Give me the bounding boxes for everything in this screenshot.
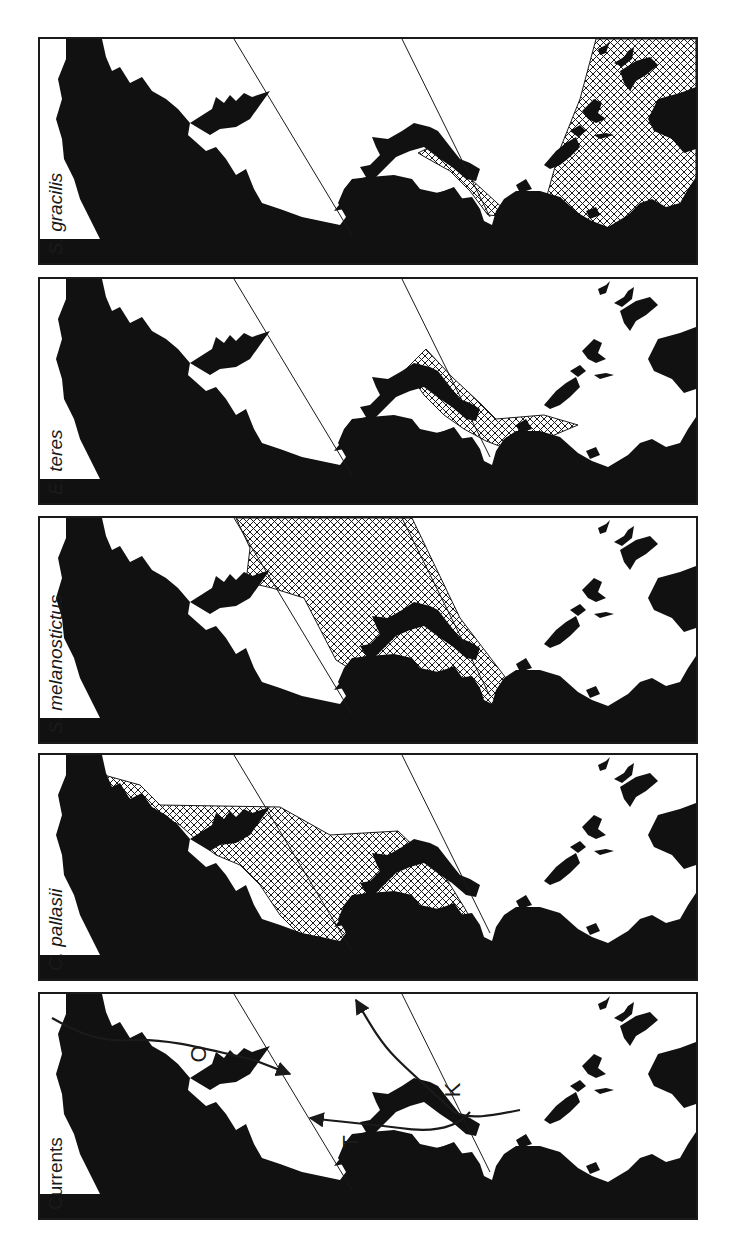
panel-e-teres: E. teres bbox=[38, 277, 698, 505]
current-label-k: K bbox=[440, 1082, 465, 1097]
panel-label: S. melanostictus bbox=[44, 595, 68, 734]
map-e-teres bbox=[40, 279, 696, 503]
panel-currents: O K T Currents bbox=[38, 992, 698, 1220]
map-s-gracilis bbox=[40, 39, 696, 263]
panel-s-melanostictus: S. melanostictus bbox=[38, 516, 698, 744]
panel-label: Currents bbox=[44, 1137, 68, 1210]
panel-label: S. gracilis bbox=[44, 173, 68, 255]
map-currents: O K T bbox=[40, 994, 696, 1218]
map-c-pallasii bbox=[40, 755, 696, 979]
panel-label: C. pallasii bbox=[44, 889, 68, 971]
panel-s-gracilis: S. gracilis bbox=[38, 37, 698, 265]
current-label-t: T bbox=[338, 1135, 363, 1148]
panel-c-pallasii: C. pallasii bbox=[38, 753, 698, 981]
current-label-o: O bbox=[186, 1045, 211, 1062]
map-s-melanostictus bbox=[40, 518, 696, 742]
panel-label: E. teres bbox=[44, 430, 68, 495]
